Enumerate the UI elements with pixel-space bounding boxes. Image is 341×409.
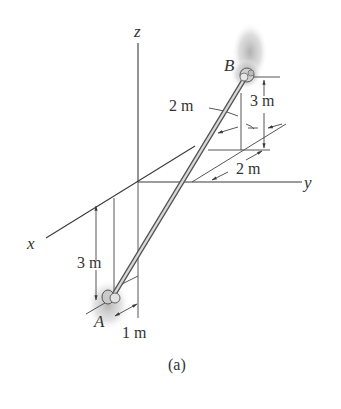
x-axis-label: x bbox=[26, 234, 35, 253]
figure-caption: (a) bbox=[168, 356, 186, 374]
dim-b-offset-x: 2 m bbox=[169, 97, 194, 114]
dim-a-height: 3 m bbox=[77, 254, 102, 271]
dim-b-offset-y: 2 m bbox=[236, 160, 261, 177]
x-axis bbox=[46, 146, 195, 238]
z-axis-label: z bbox=[133, 22, 141, 41]
ball-joint-b bbox=[240, 68, 254, 82]
dim-b-height: 3 m bbox=[250, 92, 275, 109]
dim-a-offset: 1 m bbox=[122, 324, 147, 341]
rod-diagram: z y x B A 2 m 3 m 2 m 3 m 1 m (a) bbox=[0, 0, 341, 409]
point-b-label: B bbox=[224, 56, 235, 75]
point-a-label: A bbox=[93, 312, 105, 331]
y-axis-label: y bbox=[302, 173, 312, 192]
